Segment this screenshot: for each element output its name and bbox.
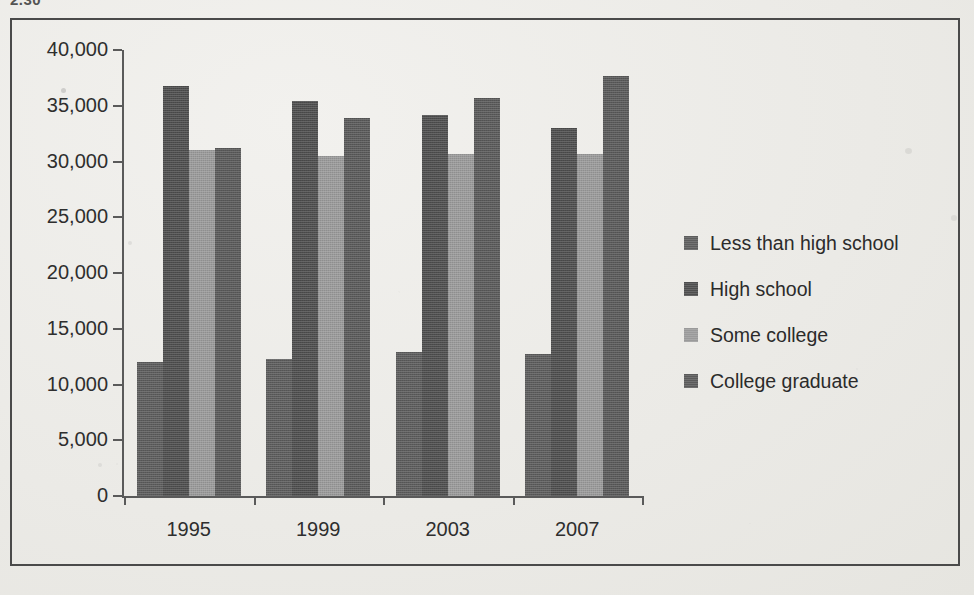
bar-2003-series-3	[474, 98, 500, 496]
legend-item-label: Less than high school	[710, 232, 899, 255]
x-axis-tick	[513, 496, 515, 505]
x-axis-tick	[642, 496, 644, 505]
chart-frame: 05,00010,00015,00020,00025,00030,00035,0…	[10, 18, 960, 566]
bar-2003-series-2	[448, 154, 474, 496]
bar-2007-series-2	[577, 154, 603, 496]
bar-1999-series-0	[266, 359, 292, 496]
legend-swatch-icon	[684, 328, 698, 342]
bar-1999-series-2	[318, 156, 344, 496]
y-axis-tick-label: 10,000	[20, 373, 108, 396]
y-axis-tick	[113, 105, 122, 107]
y-axis-tick-label: 0	[20, 484, 108, 507]
bar-1999-series-3	[344, 118, 370, 496]
y-axis-tick	[113, 272, 122, 274]
bar-2003-series-0	[396, 352, 422, 496]
bar-2003-series-1	[422, 115, 448, 496]
y-axis-tick	[113, 384, 122, 386]
legend-item[interactable]: Less than high school	[684, 220, 949, 266]
y-axis-tick	[113, 495, 122, 497]
y-axis-tick	[113, 216, 122, 218]
y-axis-tick	[113, 439, 122, 441]
bar-1995-series-2	[189, 150, 215, 496]
y-axis-tick	[113, 49, 122, 51]
y-axis-tick	[113, 328, 122, 330]
x-axis-tick-label: 1995	[129, 518, 249, 541]
chart-legend: Less than high schoolHigh schoolSome col…	[684, 220, 949, 404]
y-axis-tick-label: 20,000	[20, 261, 108, 284]
legend-item[interactable]: College graduate	[684, 358, 949, 404]
bar-1999-series-1	[292, 101, 318, 496]
plot-area: 05,00010,00015,00020,00025,00030,00035,0…	[12, 20, 958, 564]
y-axis-tick	[113, 161, 122, 163]
legend-swatch-icon	[684, 374, 698, 388]
legend-item-label: Some college	[710, 324, 828, 347]
bar-1995-series-1	[163, 86, 189, 496]
x-axis-tick-label: 2007	[517, 518, 637, 541]
x-axis-line	[122, 496, 642, 498]
clipped-page-caption: 2.30	[10, 0, 41, 5]
bars-layer	[124, 50, 642, 496]
bar-2007-series-3	[603, 76, 629, 496]
y-axis-tick-label: 30,000	[20, 150, 108, 173]
y-axis-tick-label: 40,000	[20, 38, 108, 61]
legend-item[interactable]: Some college	[684, 312, 949, 358]
x-axis-tick	[383, 496, 385, 505]
x-axis-tick	[124, 496, 126, 505]
x-axis-tick-label: 1999	[258, 518, 378, 541]
x-axis-tick-label: 2003	[388, 518, 508, 541]
legend-swatch-icon	[684, 282, 698, 296]
y-axis-tick-label: 5,000	[20, 428, 108, 451]
legend-item[interactable]: High school	[684, 266, 949, 312]
x-axis-tick	[254, 496, 256, 505]
bar-2007-series-1	[551, 128, 577, 496]
bar-1995-series-3	[215, 148, 241, 496]
legend-item-label: College graduate	[710, 370, 859, 393]
y-axis-tick-label: 15,000	[20, 317, 108, 340]
bar-2007-series-0	[525, 354, 551, 496]
y-axis-tick-label: 25,000	[20, 205, 108, 228]
legend-swatch-icon	[684, 236, 698, 250]
legend-item-label: High school	[710, 278, 812, 301]
bar-1995-series-0	[137, 362, 163, 496]
y-axis-tick-label: 35,000	[20, 94, 108, 117]
